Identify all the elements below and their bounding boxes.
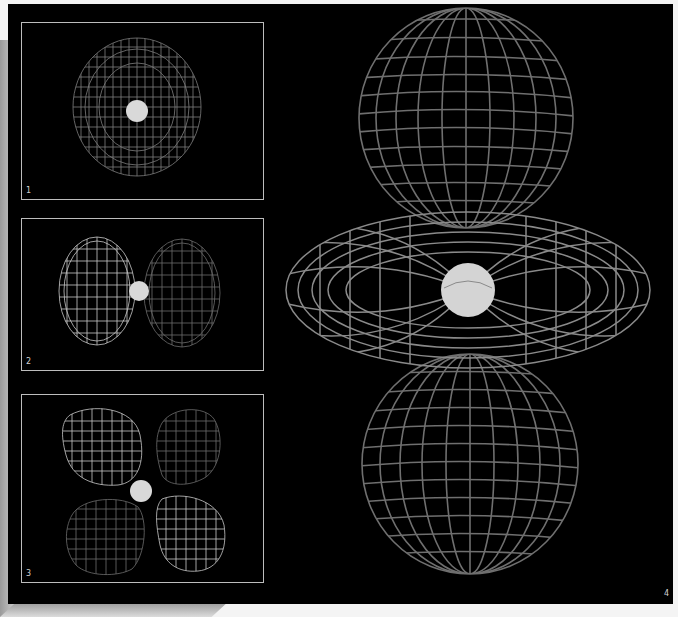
dz2-orbital-wireframe-icon: [280, 4, 673, 604]
p-orbital-wireframe-icon: [22, 219, 265, 372]
panel-number: 4: [664, 589, 669, 598]
panel-3-d-orbital: 3: [21, 394, 264, 583]
panel-4-dz2-orbital: 4: [280, 4, 673, 604]
d-orbital-wireframe-icon: [22, 395, 265, 584]
panel-number: 2: [26, 357, 31, 366]
nucleus-icon: [129, 281, 149, 301]
figure-plate: 1: [8, 4, 673, 604]
panel-number: 1: [26, 186, 31, 195]
nucleus-icon: [130, 480, 152, 502]
panel-2-p-orbital: 2: [21, 218, 264, 371]
panel-1-s-orbital: 1: [21, 22, 264, 200]
nucleus-icon: [126, 100, 148, 122]
panel-number: 3: [26, 569, 31, 578]
s-orbital-wireframe-icon: [22, 23, 265, 201]
nucleus-icon: [441, 263, 495, 317]
